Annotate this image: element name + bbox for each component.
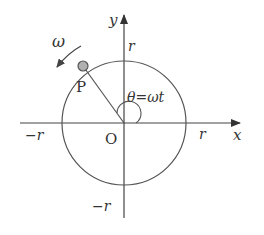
x-pos-tick-label: r xyxy=(199,126,207,142)
point-p-label: P xyxy=(76,78,86,96)
radius-line xyxy=(83,66,124,123)
x-axis-label: x xyxy=(233,126,242,144)
y-neg-tick-label: −r xyxy=(92,198,112,214)
y-pos-tick-label: r xyxy=(128,38,136,54)
y-axis-label: y xyxy=(108,11,118,29)
point-p xyxy=(78,61,88,71)
omega-label: ω xyxy=(52,32,65,51)
diagram-svg: y r ω P θ=ωt −r O r x −r xyxy=(0,0,264,235)
x-neg-tick-label: −r xyxy=(25,127,45,143)
circular-motion-diagram: y r ω P θ=ωt −r O r x −r xyxy=(0,0,264,235)
origin-label: O xyxy=(105,130,117,148)
angle-label: θ=ωt xyxy=(127,89,165,105)
